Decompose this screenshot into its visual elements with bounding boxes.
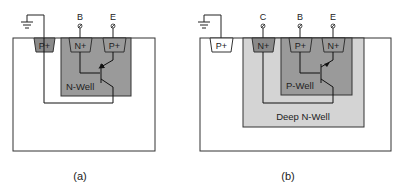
p-plus-contact-b: P+ — [210, 38, 233, 52]
diagram-canvas: P+ N+ P+ B E — [0, 0, 396, 189]
terminal-c-b: C — [260, 12, 267, 38]
terminal-e-a: E — [110, 12, 116, 38]
svg-text:E: E — [110, 12, 116, 22]
ground-icon — [198, 15, 221, 38]
n-well-label: N-Well — [66, 81, 94, 92]
svg-text:P+: P+ — [109, 41, 120, 51]
caption-b: (b) — [281, 170, 294, 182]
terminal-b-b: B — [297, 12, 303, 38]
svg-text:P+: P+ — [216, 41, 227, 51]
svg-text:N+: N+ — [75, 41, 87, 51]
n-plus-emitter-b: N+ — [322, 38, 345, 52]
svg-text:B: B — [297, 12, 303, 22]
svg-text:E: E — [330, 12, 336, 22]
diagram-a: P+ N+ P+ B E — [13, 12, 155, 182]
ground-icon — [21, 15, 44, 38]
svg-text:P+: P+ — [295, 41, 306, 51]
svg-text:B: B — [77, 12, 83, 22]
p-plus-base-b: P+ — [289, 38, 312, 52]
terminal-b-a: B — [77, 12, 83, 38]
n-plus-collector-b: N+ — [252, 38, 275, 52]
svg-text:N+: N+ — [258, 41, 270, 51]
diagram-b: P+ N+ P+ N+ C B E — [198, 12, 391, 182]
deep-n-well-label: Deep N-Well — [276, 111, 330, 122]
n-plus-base-a: N+ — [69, 38, 92, 52]
p-well-label: P-Well — [286, 80, 314, 91]
svg-text:N+: N+ — [328, 41, 340, 51]
svg-text:C: C — [260, 12, 267, 22]
terminal-e-b: E — [330, 12, 336, 38]
caption-a: (a) — [73, 170, 86, 182]
p-plus-emitter-a: P+ — [103, 38, 126, 52]
